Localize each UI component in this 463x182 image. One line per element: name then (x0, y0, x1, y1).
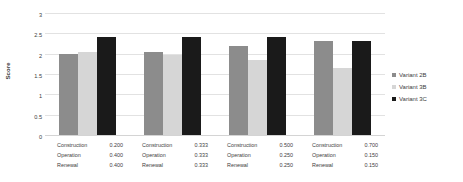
bar[interactable] (267, 37, 286, 135)
table-row-value: 0.400 (99, 162, 123, 168)
y-axis-tick-label: 0 (22, 135, 42, 141)
bar[interactable] (182, 37, 201, 135)
table-row-value: 0.333 (184, 142, 208, 148)
legend-swatch-icon (392, 73, 396, 77)
table-row-label: Operation (57, 152, 99, 158)
table-row: Renewal0.400 (57, 160, 130, 170)
bar-group (130, 13, 215, 135)
table-row-value: 0.700 (354, 142, 378, 148)
table-group: Construction0.500Operation0.250Renewal0.… (215, 140, 300, 176)
table-row-value: 0.200 (99, 142, 123, 148)
legend-item-label: Variant 2B (399, 72, 427, 78)
legend-item[interactable]: Variant 3C (392, 93, 460, 105)
chart-legend: Variant 2BVariant 3BVariant 3C (392, 69, 460, 105)
table-row: Renewal0.150 (312, 160, 385, 170)
table-row-value: 0.250 (269, 162, 293, 168)
table-row-label: Renewal (227, 162, 269, 168)
y-axis-tick-label: 1.5 (22, 74, 42, 80)
table-row-value: 0.250 (269, 152, 293, 158)
weights-data-table: Construction0.200Operation0.400Renewal0.… (45, 140, 385, 176)
plot-area (45, 13, 385, 135)
table-row: Operation0.400 (57, 150, 130, 160)
legend-swatch-icon (392, 85, 396, 89)
bar-group (45, 13, 130, 135)
table-row-label: Construction (227, 142, 269, 148)
y-axis-tick-label: 2.5 (22, 33, 42, 39)
table-row-label: Operation (312, 152, 354, 158)
table-row: Renewal0.333 (142, 160, 215, 170)
y-axis-tick-label: 3 (22, 13, 42, 19)
bar[interactable] (144, 52, 163, 135)
table-row-value: 0.333 (184, 152, 208, 158)
table-row-value: 0.150 (354, 152, 378, 158)
bar-groups (45, 13, 385, 135)
table-row-label: Operation (142, 152, 184, 158)
table-group: Construction0.700Operation0.150Renewal0.… (300, 140, 385, 176)
table-row: Construction0.333 (142, 140, 215, 150)
table-row: Operation0.250 (227, 150, 300, 160)
table-row-value: 0.333 (184, 162, 208, 168)
y-axis-tick-labels: 32.521.510.50 (22, 8, 42, 138)
table-group: Construction0.333Operation0.333Renewal0.… (130, 140, 215, 176)
table-row: Operation0.333 (142, 150, 215, 160)
legend-swatch-icon (392, 97, 396, 101)
table-group: Construction0.200Operation0.400Renewal0.… (45, 140, 130, 176)
bar[interactable] (314, 41, 333, 135)
table-row-label: Construction (312, 142, 354, 148)
bar[interactable] (352, 41, 371, 135)
bar[interactable] (97, 37, 116, 135)
bar[interactable] (78, 52, 97, 135)
y-axis-title: Score (5, 49, 11, 93)
table-row: Construction0.700 (312, 140, 385, 150)
bar[interactable] (248, 60, 267, 135)
table-row-value: 0.150 (354, 162, 378, 168)
table-row-value: 0.400 (99, 152, 123, 158)
y-axis-tick-label: 0.5 (22, 115, 42, 121)
table-row-label: Renewal (312, 162, 354, 168)
bar-group (300, 13, 385, 135)
table-row: Operation0.150 (312, 150, 385, 160)
table-row: Construction0.500 (227, 140, 300, 150)
table-row: Construction0.200 (57, 140, 130, 150)
legend-item[interactable]: Variant 2B (392, 69, 460, 81)
bar-chart: Score 32.521.510.50 Variant 2BVariant 3B… (0, 0, 463, 182)
table-row-value: 0.500 (269, 142, 293, 148)
table-row-label: Renewal (142, 162, 184, 168)
y-axis-tick-label: 1 (22, 94, 42, 100)
y-axis-tick-label: 2 (22, 54, 42, 60)
legend-item-label: Variant 3C (399, 96, 427, 102)
table-row-label: Operation (227, 152, 269, 158)
bar[interactable] (59, 54, 78, 135)
bar-group (215, 13, 300, 135)
table-row-label: Construction (57, 142, 99, 148)
table-row-label: Construction (142, 142, 184, 148)
table-row: Renewal0.250 (227, 160, 300, 170)
bar[interactable] (333, 68, 352, 135)
legend-item-label: Variant 3B (399, 84, 427, 90)
axis-baseline (45, 135, 385, 136)
table-row-label: Renewal (57, 162, 99, 168)
bar[interactable] (163, 55, 182, 135)
bar[interactable] (229, 46, 248, 135)
legend-item[interactable]: Variant 3B (392, 81, 460, 93)
